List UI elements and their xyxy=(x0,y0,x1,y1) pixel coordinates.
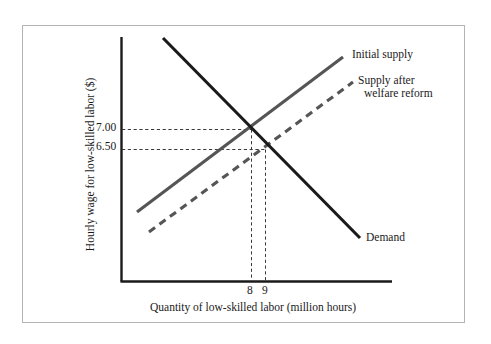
curve-label-supply-reform-line1: Supply after xyxy=(358,74,415,86)
curve-label-supply-reform-line2: welfare reform xyxy=(358,87,433,100)
curve-label-supply-after-welfare-reform: Supply after welfare reform xyxy=(358,74,433,100)
y-axis-tick-label-6-50: 6.50 xyxy=(96,140,116,153)
x-axis-title: Quantity of low-skilled labor (million h… xyxy=(150,301,356,314)
curve-label-demand: Demand xyxy=(366,231,405,244)
supply-demand-plot xyxy=(0,0,491,344)
y-axis-tick-label-7-00: 7.00 xyxy=(96,121,116,134)
y-axis-title: Hourly wage for low-skilled labor ($) xyxy=(84,54,97,274)
curve-label-initial-supply: Initial supply xyxy=(352,48,413,61)
curve-supply-after-welfare-reform xyxy=(149,82,353,232)
figure-root: 7.00 6.50 8 9 Quantity of low-skilled la… xyxy=(0,0,491,344)
x-axis-tick-label-8: 8 xyxy=(247,284,253,297)
x-axis-tick-label-9: 9 xyxy=(262,284,268,297)
